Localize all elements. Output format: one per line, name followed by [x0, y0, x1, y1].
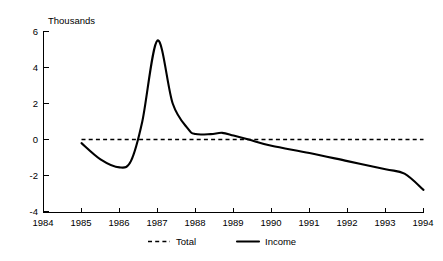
x-tick-label: 1993	[374, 217, 395, 228]
x-tick-label: 1992	[336, 217, 357, 228]
x-tick-label: 1991	[298, 217, 319, 228]
x-tick-label: 1989	[222, 217, 243, 228]
y-axis-ticks	[44, 32, 49, 212]
series-line-income	[82, 40, 424, 190]
y-tick-label: 0	[33, 134, 38, 145]
y-axis-title: Thousands	[48, 15, 95, 26]
x-tick-label: 1994	[412, 217, 433, 228]
line-chart: Thousands 6 4 2 0 -2 -4	[0, 0, 443, 261]
chart-container: Thousands 6 4 2 0 -2 -4	[0, 0, 443, 261]
legend-label-total: Total	[176, 236, 196, 247]
x-tick-label: 1986	[108, 217, 129, 228]
y-tick-label: -2	[30, 170, 38, 181]
x-tick-label: 1990	[260, 217, 281, 228]
x-tick-label: 1988	[184, 217, 205, 228]
y-axis-tick-labels: 6 4 2 0 -2 -4	[30, 26, 38, 217]
y-tick-label: -4	[30, 206, 38, 217]
y-tick-label: 2	[33, 98, 38, 109]
chart-legend: Total Income	[148, 236, 296, 247]
x-axis-ticks	[44, 208, 424, 213]
x-axis-tick-labels: 1984 1985 1986 1987 1988 1989 1990 1991 …	[32, 217, 433, 228]
x-tick-label: 1984	[32, 217, 53, 228]
y-tick-label: 6	[33, 26, 38, 37]
x-tick-label: 1987	[146, 217, 167, 228]
y-tick-label: 4	[33, 62, 38, 73]
x-tick-label: 1985	[70, 217, 91, 228]
legend-label-income: Income	[265, 236, 296, 247]
